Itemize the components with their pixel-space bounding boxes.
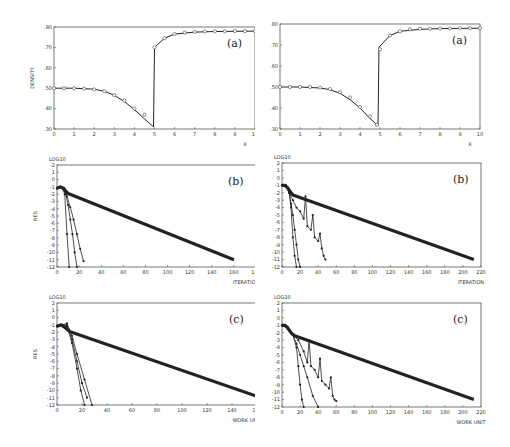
data-point bbox=[68, 266, 70, 268]
data-point bbox=[72, 219, 74, 221]
data-point bbox=[478, 27, 481, 30]
y-tick-label: -2 bbox=[275, 330, 280, 336]
panel-label: (b) bbox=[453, 173, 469, 186]
y-tick-label: -12 bbox=[47, 264, 55, 270]
data-point bbox=[86, 397, 88, 399]
data-point bbox=[328, 88, 331, 91]
data-point bbox=[335, 400, 337, 402]
data-point bbox=[76, 367, 78, 369]
data-point bbox=[368, 115, 371, 118]
data-point bbox=[81, 382, 83, 384]
y-tick-label: -10 bbox=[272, 389, 280, 395]
data-point bbox=[76, 353, 78, 355]
y-tick-label: -8 bbox=[50, 373, 55, 379]
plot-frame bbox=[57, 303, 255, 405]
y-tick-label: .60 bbox=[270, 63, 278, 69]
y-tick-label: 2 bbox=[52, 300, 55, 306]
x-tick-label: 0 bbox=[278, 131, 281, 137]
x-tick-label: 20 bbox=[297, 409, 303, 415]
data-point bbox=[317, 406, 319, 408]
data-point bbox=[79, 248, 81, 250]
x-tick-label: 1 bbox=[298, 131, 301, 137]
x-tick-label: 1 bbox=[73, 131, 76, 137]
x-tick-label: 20 bbox=[76, 269, 82, 275]
data-point bbox=[76, 360, 78, 362]
x-tick-label: 9 bbox=[458, 131, 461, 137]
y-tick-label: -1 bbox=[275, 182, 280, 188]
x-tick-label: 140 bbox=[404, 269, 414, 275]
data-point bbox=[76, 233, 78, 235]
x-tick-label: 140 bbox=[227, 407, 237, 413]
data-point bbox=[324, 258, 326, 260]
y-tick-label: -3 bbox=[50, 198, 55, 204]
data-point bbox=[388, 34, 391, 37]
data-point bbox=[299, 384, 301, 386]
x-tick-label: 60 bbox=[120, 269, 126, 275]
data-point bbox=[333, 398, 335, 400]
data-point bbox=[299, 266, 301, 268]
x-tick-label: 0 bbox=[55, 407, 58, 413]
y-tick-label: -11 bbox=[272, 256, 280, 262]
data-point bbox=[338, 91, 341, 94]
data-point bbox=[295, 266, 297, 268]
series-line-oscillating bbox=[282, 185, 325, 259]
y-tick-label: .50 bbox=[270, 84, 278, 90]
y-tick-label: 1 bbox=[277, 167, 280, 173]
y-tick-label: -6 bbox=[50, 220, 55, 226]
y-tick-label: -9 bbox=[50, 242, 55, 248]
x-tick-label: 100 bbox=[177, 407, 187, 413]
y-tick-label: 2 bbox=[277, 160, 280, 166]
data-point bbox=[71, 335, 73, 337]
data-point bbox=[438, 27, 441, 30]
data-point bbox=[233, 29, 236, 32]
x-tick-label: 100 bbox=[368, 269, 378, 275]
y-tick-label: -10 bbox=[47, 387, 55, 393]
data-point bbox=[83, 378, 85, 380]
x-tick-label: 4 bbox=[133, 131, 136, 137]
chart-bottom-left: 020406080100120140160210-1-2-3-4-5-6-7-8… bbox=[0, 285, 255, 447]
y-tick-label: -12 bbox=[272, 404, 280, 410]
panel-label: (a) bbox=[452, 34, 467, 47]
data-point bbox=[308, 85, 311, 88]
x-tick-label: 220 bbox=[476, 409, 486, 415]
x-tick-label: 0 bbox=[55, 269, 58, 275]
data-point bbox=[303, 218, 305, 220]
x-tick-label: 80 bbox=[142, 269, 148, 275]
data-point bbox=[332, 395, 334, 397]
data-point bbox=[468, 27, 471, 30]
chart-svg: 020406080100120140160180200220210-1-2-3-… bbox=[255, 145, 510, 290]
y-tick-label: .80 bbox=[44, 24, 52, 30]
data-point bbox=[292, 334, 294, 336]
data-point bbox=[299, 354, 301, 356]
data-point bbox=[330, 376, 332, 378]
y-tick-label: -9 bbox=[50, 380, 55, 386]
y-tick-label: .80 bbox=[270, 21, 278, 27]
data-point bbox=[458, 27, 461, 30]
data-point bbox=[80, 389, 82, 391]
x-tick-label: 5 bbox=[378, 131, 381, 137]
data-point bbox=[76, 266, 78, 268]
data-point bbox=[91, 404, 93, 406]
data-point bbox=[223, 30, 226, 33]
y-tick-label: -1 bbox=[50, 322, 55, 328]
y-tick-label: -7 bbox=[50, 227, 55, 233]
y-tick-label: -5 bbox=[275, 352, 280, 358]
chart-svg: 020406080100120140160180210-1-2-3-4-5-6-… bbox=[0, 145, 255, 290]
chart-bottom-right: 020406080100120140160180200220210-1-2-3-… bbox=[255, 285, 510, 447]
x-tick-label: 8 bbox=[213, 131, 216, 137]
data-point bbox=[298, 85, 301, 88]
data-point bbox=[408, 28, 411, 31]
series-line-exact bbox=[54, 31, 255, 127]
panel-label: (c) bbox=[229, 313, 244, 326]
x-tick-label: 200 bbox=[458, 409, 468, 415]
x-tick-label: 40 bbox=[315, 269, 321, 275]
y-tick-label: -7 bbox=[275, 367, 280, 373]
y-tick-label: -2 bbox=[50, 329, 55, 335]
series-line-slow bbox=[282, 185, 474, 259]
data-point bbox=[203, 30, 206, 33]
data-point bbox=[398, 30, 401, 33]
x-tick-label: 7 bbox=[193, 131, 196, 137]
y-axis-title: LOG10 bbox=[274, 154, 291, 160]
y-tick-label: -6 bbox=[50, 358, 55, 364]
data-point bbox=[123, 99, 126, 102]
